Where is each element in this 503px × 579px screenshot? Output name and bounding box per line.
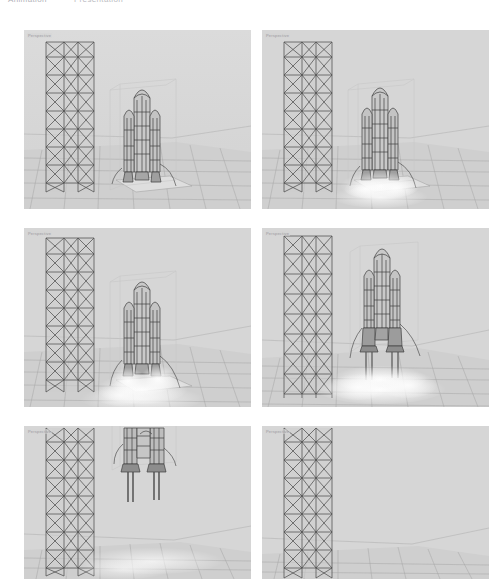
header-title: Animation — [8, 0, 47, 4]
viewport-label: Perspective — [265, 429, 290, 434]
viewport-label: Perspective — [27, 429, 52, 434]
wireframe-scene — [24, 30, 251, 209]
animation-frame[interactable]: Perspective — [262, 426, 489, 579]
animation-frame-sheet: Animation Presentation Perspective — [0, 0, 503, 579]
animation-frame[interactable]: Perspective — [24, 30, 251, 209]
wireframe-scene — [262, 228, 489, 407]
frame-grid: Perspective — [24, 30, 496, 579]
viewport-label: Perspective — [27, 231, 52, 236]
wireframe-scene — [24, 228, 251, 407]
wireframe-scene — [262, 30, 489, 209]
viewport-label: Perspective — [265, 33, 290, 38]
viewport-label: Perspective — [27, 33, 52, 38]
header-inner: Animation Presentation — [8, 0, 123, 4]
header-subtitle: Presentation — [74, 0, 123, 4]
viewport-label: Perspective — [265, 231, 290, 236]
page-header: Animation Presentation — [0, 0, 503, 14]
animation-frame[interactable]: Perspective — [24, 228, 251, 407]
animation-frame[interactable]: Perspective — [262, 30, 489, 209]
animation-frame[interactable]: Perspective — [262, 228, 489, 407]
wireframe-scene — [262, 426, 489, 579]
animation-frame[interactable]: Perspective — [24, 426, 251, 579]
wireframe-scene — [24, 426, 251, 579]
